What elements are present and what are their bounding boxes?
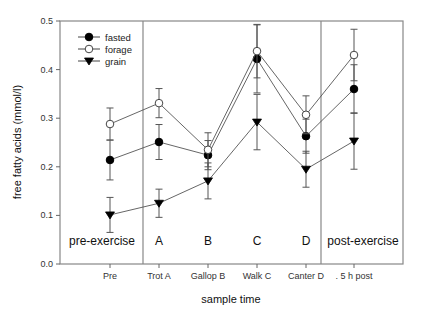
triangle-down-marker (204, 178, 213, 185)
region-label: C (253, 234, 262, 248)
y-tick-label: 0.4 (40, 65, 53, 75)
open-circle-marker (253, 47, 261, 55)
filled-circle-marker (155, 138, 163, 146)
legend-label-forage: forage (105, 44, 132, 55)
open-circle-marker (106, 120, 114, 128)
open-circle-marker (85, 45, 93, 53)
triangle-down-marker (302, 166, 311, 173)
fatty-acids-chart: 0.00.10.20.30.40.5PreTrot AGallop BWalk … (0, 0, 423, 322)
x-tick-label: . 5 h post (335, 271, 373, 281)
series-forage (106, 24, 358, 166)
y-tick-label: 0.2 (40, 162, 53, 172)
open-circle-marker (350, 51, 358, 59)
legend: fastedforagegrain (78, 32, 132, 67)
y-axis-title: free fatty acids (mmol/l) (11, 85, 23, 199)
open-circle-marker (302, 111, 310, 119)
y-tick-label: 0.3 (40, 113, 53, 123)
region-label: post-exercise (327, 234, 399, 248)
legend-label-grain: grain (105, 56, 126, 67)
open-circle-marker (204, 146, 212, 154)
x-tick-label: Canter D (288, 271, 325, 281)
x-tick-label: Pre (103, 271, 117, 281)
open-circle-marker (155, 99, 163, 107)
filled-circle-marker (85, 33, 93, 41)
y-tick-label: 0.0 (40, 259, 53, 269)
triangle-down-marker (350, 138, 359, 145)
x-tick-label: Walk C (243, 271, 272, 281)
filled-circle-marker (350, 85, 358, 93)
y-tick-label: 0.5 (40, 16, 53, 26)
series-line (110, 51, 354, 150)
y-tick-label: 0.1 (40, 210, 53, 220)
x-tick-label: Gallop B (191, 271, 226, 281)
region-label: pre-exercise (69, 234, 135, 248)
region-label: B (204, 234, 212, 248)
series-line (110, 122, 354, 215)
legend-label-fasted: fasted (105, 32, 131, 43)
filled-circle-marker (106, 156, 114, 164)
triangle-down-marker (106, 212, 115, 219)
x-axis-title: sample time (201, 293, 260, 305)
series-line (110, 59, 354, 160)
region-label: D (302, 234, 311, 248)
x-tick-label: Trot A (147, 271, 171, 281)
region-label: A (155, 234, 163, 248)
